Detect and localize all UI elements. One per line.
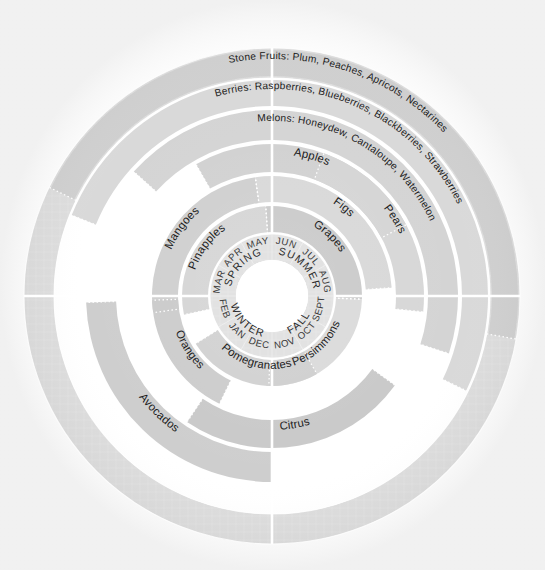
- seasonal-fruit-wheel: PinapplesGrapesPersimmonsPomegranatesMan…: [0, 0, 545, 570]
- wheel-svg: PinapplesGrapesPersimmonsPomegranatesMan…: [0, 0, 545, 570]
